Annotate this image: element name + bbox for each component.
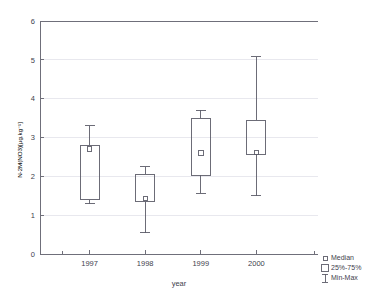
box-plot-chart: 0123456 1997199819992000 year N-2M(NO3)[… [0, 0, 385, 300]
y-tick-label-6: 6 [31, 17, 35, 26]
y-tick-label-0: 0 [31, 250, 35, 259]
x-tick-label-1999: 1999 [192, 259, 209, 268]
x-tick-label-1998: 1998 [137, 259, 154, 268]
legend-label-1: Median [331, 254, 354, 261]
median-marker-1999 [199, 151, 203, 155]
y-axis-ticks: 0123456 [31, 17, 44, 259]
y-tick-label-4: 4 [31, 94, 35, 103]
median-marker-1997 [87, 147, 91, 151]
box-plot-2000 [247, 57, 266, 196]
gridlines [41, 60, 318, 215]
box-iqr-1998 [136, 174, 155, 201]
box-plot-1999 [191, 110, 210, 193]
y-tick-label-5: 5 [31, 56, 35, 65]
y-tick-label-3: 3 [31, 133, 35, 142]
plot-canvas: 0123456 1997199819992000 year N-2M(NO3)[… [0, 0, 385, 300]
x-axis-ticks: 1997199819992000 [62, 250, 314, 268]
x-tick-label-1997: 1997 [81, 259, 98, 268]
legend-label-2: 25%-75% [331, 264, 361, 271]
median-marker-1998 [143, 196, 147, 200]
x-tick-label-2000: 2000 [248, 259, 265, 268]
legend-symbol-median [323, 256, 327, 260]
box-iqr-1999 [191, 118, 210, 175]
legend-symbol-iqr [322, 265, 329, 272]
y-tick-label-2: 2 [31, 172, 35, 181]
y-tick-label-1: 1 [31, 211, 35, 220]
y-axis-title: N-2M(NO3)[µg.kg⁻¹] [16, 122, 23, 178]
x-axis-title: year [172, 279, 187, 288]
box-iqr-1997 [80, 145, 99, 199]
box-series [80, 57, 266, 233]
legend: Median25%-75%Min-Max [322, 254, 362, 282]
legend-label-3: Min-Max [331, 274, 358, 281]
